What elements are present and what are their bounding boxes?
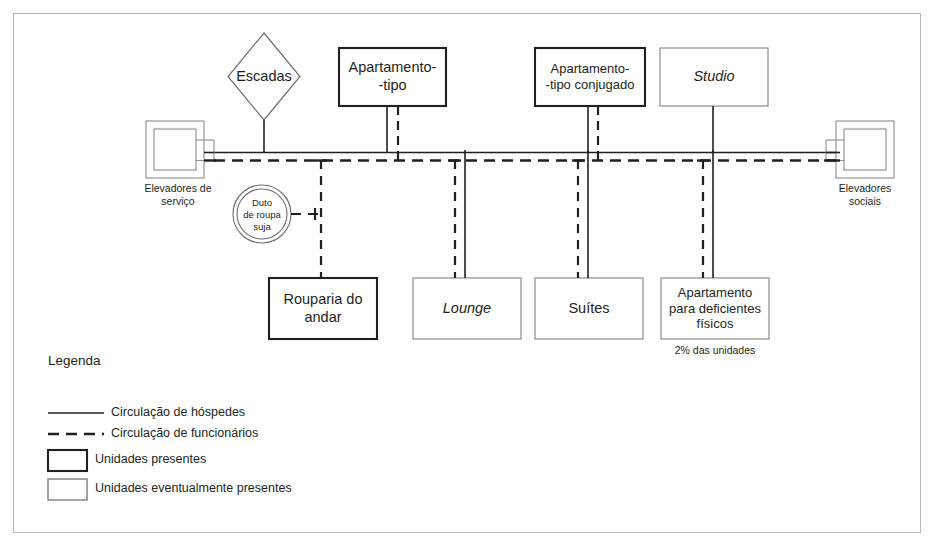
diagram-graphics (0, 0, 936, 549)
legend-item-label-staff-circulation: Circulação de funcionários (111, 426, 258, 440)
node-label-duto-line2: de roupa (234, 209, 290, 221)
node-label-deficientes-line1: Apartamento (678, 285, 752, 301)
node-label-conjugado-line1: Apartamento- (551, 61, 630, 77)
node-label-rouparia-do-andar: Rouparia do andar (269, 278, 377, 339)
node-label-rouparia-line2: andar (304, 309, 341, 327)
node-label-escadas: Escadas (228, 62, 300, 92)
node-elevadores-sociais[interactable] (824, 121, 894, 178)
node-label-duto-roupa-suja: Duto de roupa suja (234, 197, 290, 233)
legend-item-label-units-present: Unidades presentes (95, 452, 206, 466)
node-escadas[interactable] (228, 33, 300, 153)
node-label-apartamento-tipo: Apartamento- -tipo (339, 48, 446, 106)
node-label-apartamento-tipo-line1: Apartamento- (349, 59, 437, 77)
legend-symbol-strong-box (48, 450, 87, 471)
node-label-elevadores-servico-line1: Elevadores de (132, 182, 224, 195)
node-label-elevadores-servico-line2: serviço (132, 195, 224, 208)
legend-title: Legenda (48, 353, 101, 368)
node-label-conjugado-line2: -tipo conjugado (546, 77, 635, 93)
node-label-suites: Suítes (535, 278, 643, 339)
node-label-elevadores-sociais-line1: Elevadores (822, 182, 908, 195)
node-label-rouparia-line1: Rouparia do (284, 291, 363, 309)
node-note-deficientes: 2% das unidades (653, 344, 777, 357)
node-label-duto-line3: suja (234, 221, 290, 233)
node-label-apartamento-tipo-line2: -tipo (378, 77, 406, 95)
node-label-elevadores-sociais: Elevadores sociais (822, 182, 908, 207)
node-label-apartamento-deficientes: Apartamento para deficientes físicos (659, 278, 771, 339)
node-label-deficientes-line3: físicos (697, 316, 734, 332)
node-label-elevadores-servico: Elevadores de serviço (132, 182, 224, 207)
node-label-lounge: Lounge (413, 278, 521, 339)
legend-item-label-guest-circulation: Circulação de hóspedes (111, 405, 245, 419)
node-label-deficientes-line2: para deficientes (669, 301, 761, 317)
node-label-elevadores-sociais-line2: sociais (822, 195, 908, 208)
node-label-apartamento-tipo-conjugado: Apartamento- -tipo conjugado (533, 48, 647, 106)
node-elevadores-servico[interactable] (146, 121, 216, 178)
legend-symbol-light-box (48, 479, 87, 500)
node-label-studio: Studio (660, 48, 768, 106)
diagram-canvas: Escadas Apartamento- -tipo Apartamento- … (0, 0, 936, 549)
node-label-duto-line1: Duto (234, 197, 290, 209)
legend-item-label-units-eventual: Unidades eventualmente presentes (95, 481, 292, 495)
